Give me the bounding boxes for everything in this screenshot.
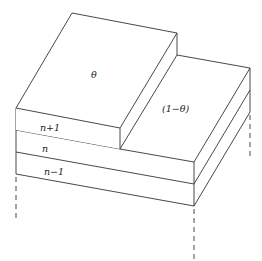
label-layer-n-plus-1: n+1 xyxy=(40,122,60,133)
layer-diagram: θ (1−θ) n+1 n n−1 xyxy=(0,0,262,261)
label-layer-n-minus-1: n−1 xyxy=(44,166,64,177)
label-layer-n: n xyxy=(42,143,48,154)
label-one-minus-theta: (1−θ) xyxy=(162,103,189,114)
label-theta: θ xyxy=(91,69,97,80)
